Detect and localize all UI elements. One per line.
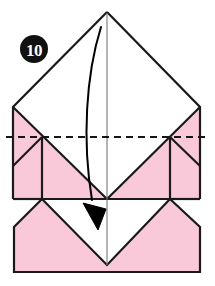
step-badge-label: 10 xyxy=(26,41,42,60)
step-number-badge: 10 xyxy=(20,35,48,63)
origami-figure: 10 xyxy=(0,0,215,286)
origami-diagram: 10 xyxy=(0,0,215,286)
